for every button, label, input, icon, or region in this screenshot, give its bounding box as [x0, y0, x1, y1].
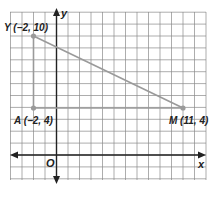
coordinate-plane: Y (−2, 10) A (−2, 4) M (11, 4) y x O [0, 0, 221, 197]
y-axis-down-arrow-icon [53, 176, 60, 184]
point-M-label: M (11, 4) [169, 115, 209, 126]
origin-label: O [46, 157, 55, 169]
x-axis-label: x [197, 158, 205, 170]
x-axis-left-arrow-icon [10, 152, 18, 159]
point-M [180, 105, 185, 110]
y-axis-label: y [60, 7, 68, 19]
point-Y-label: Y (−2, 10) [4, 22, 49, 33]
point-A [31, 105, 36, 110]
point-Y [31, 33, 36, 38]
point-A-label: A (−2, 4) [13, 115, 53, 126]
